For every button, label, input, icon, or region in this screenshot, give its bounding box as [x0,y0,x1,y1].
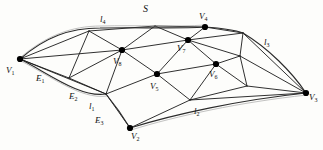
label-edge-e3: E3 [95,116,104,126]
vertex-V8 [119,47,125,53]
label-curve-l2: l2 [194,107,200,117]
label-curve-l3: l3 [264,38,270,48]
label-vertex-v7: V7 [177,44,186,54]
label-edge-e1: E1 [36,74,45,84]
vertex-V4 [202,24,208,30]
label-vertex-v5: V5 [150,82,159,92]
edge [122,50,157,74]
edge [89,31,122,50]
edge [216,56,240,64]
vertex-V6 [213,61,219,67]
edge [240,33,243,56]
label-surface: S [143,4,148,14]
edge [190,93,306,100]
vertex-V5 [154,71,160,77]
label-vertex-v6: V6 [209,70,218,80]
label-vertex-v3: V3 [309,93,318,103]
vertex-V1 [17,56,23,62]
label-curve-l1: l1 [89,102,95,112]
edge [157,64,216,74]
label-vertex-v2: V2 [131,132,140,142]
highlight-bottom [131,95,307,130]
label-curve-l4: l4 [100,15,106,25]
mesh-svg [0,0,323,150]
label-vertex-v4: V4 [199,12,208,22]
label-vertex-v8: V8 [113,57,122,67]
vertex-V7 [185,37,191,43]
edge [122,26,155,50]
label-edge-e2: E2 [69,92,78,102]
edge [247,86,306,93]
edge [188,40,240,56]
label-vertex-v1: V1 [6,66,15,76]
edge [188,40,216,64]
surface-mesh-figure: S V1 V2 V3 V4 V5 V6 V7 V8 E1 E2 E3 l1 l2… [0,0,323,150]
edge [157,74,190,100]
